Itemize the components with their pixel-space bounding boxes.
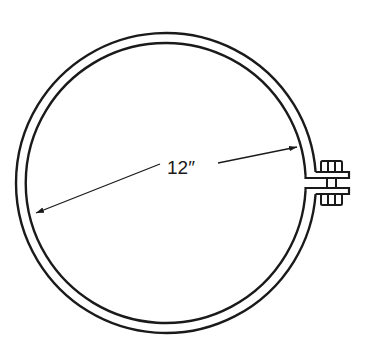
inner-ring-arc bbox=[26, 43, 306, 323]
nut bbox=[321, 194, 342, 205]
outer-ring-arc bbox=[16, 33, 316, 333]
bolt-shank bbox=[327, 178, 336, 188]
ring-band bbox=[16, 33, 316, 333]
bolt-head bbox=[321, 161, 342, 172]
diagram-canvas: 12″ bbox=[0, 0, 371, 356]
clamp-drawing bbox=[0, 0, 371, 356]
dimension-label: 12″ bbox=[164, 158, 198, 178]
